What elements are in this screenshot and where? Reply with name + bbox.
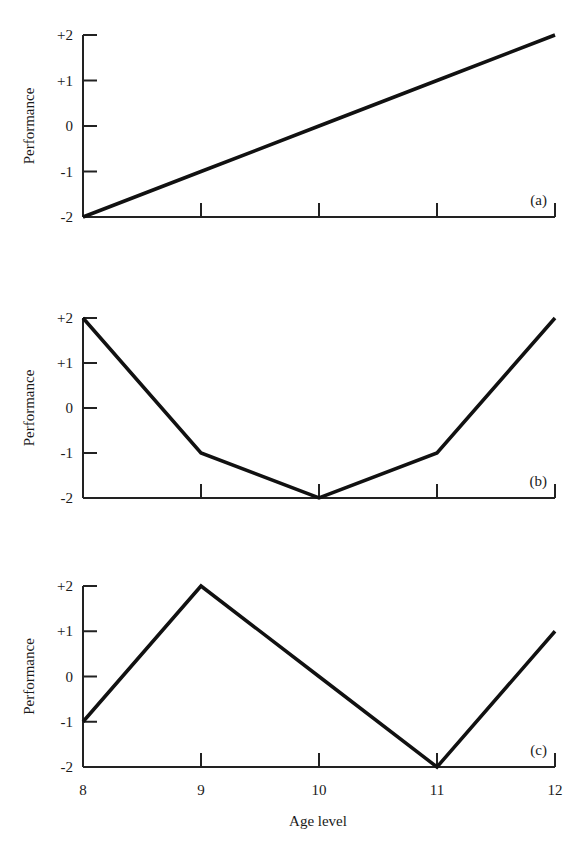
y-tick-label: +2 — [57, 578, 73, 594]
y-tick-label: +1 — [57, 73, 73, 89]
panel-label: (a) — [530, 192, 547, 209]
x-tick-label: 11 — [430, 782, 444, 798]
y-tick-label: -2 — [61, 759, 74, 775]
y-axis-title: Performance — [21, 87, 37, 164]
panel-label: (c) — [530, 742, 547, 759]
panel-a: +2+10-1-2Performance(a) — [21, 27, 555, 225]
x-axis-title: Age level — [289, 813, 347, 829]
data-line — [83, 35, 555, 217]
x-tick-label: 8 — [79, 782, 87, 798]
y-tick-label: -1 — [61, 714, 74, 730]
x-tick-label: 9 — [197, 782, 205, 798]
y-tick-label: 0 — [66, 400, 74, 416]
y-tick-label: +2 — [57, 27, 73, 43]
y-tick-label: +1 — [57, 623, 73, 639]
y-axis-title: Performance — [21, 638, 37, 715]
data-line — [83, 318, 555, 498]
panel-b: +2+10-1-2Performance(b) — [21, 310, 555, 506]
y-tick-label: 0 — [66, 118, 74, 134]
x-tick-label: 10 — [312, 782, 327, 798]
y-tick-label: -2 — [61, 209, 74, 225]
y-tick-label: 0 — [66, 669, 74, 685]
y-tick-label: +1 — [57, 355, 73, 371]
y-tick-label: -1 — [61, 164, 74, 180]
figure: +2+10-1-2Performance(a)+2+10-1-2Performa… — [0, 0, 588, 849]
y-tick-label: -1 — [61, 445, 74, 461]
x-tick-label: 12 — [548, 782, 563, 798]
panel-c: +2+10-1-2Performance(c)89101112 — [21, 578, 563, 798]
panel-label: (b) — [530, 473, 548, 490]
data-line — [83, 586, 555, 767]
y-tick-label: -2 — [61, 490, 74, 506]
y-axis-title: Performance — [21, 369, 37, 446]
y-tick-label: +2 — [57, 310, 73, 326]
